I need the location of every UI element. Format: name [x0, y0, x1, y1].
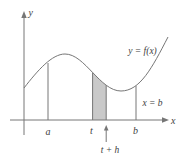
line-work	[10, 18, 168, 143]
t-tick-label: t	[90, 125, 93, 136]
y-axis-label: y	[28, 7, 34, 18]
b-tick-label: b	[133, 125, 138, 136]
x-axis-arrow-icon	[162, 117, 169, 122]
calculus-area-diagram: y x y = f(x) x = b a t b t + h	[0, 0, 184, 156]
a-tick-label: a	[46, 126, 51, 137]
x-axis-label: x	[170, 115, 176, 126]
x-equals-b-label: x = b	[141, 98, 162, 108]
t-plus-h-label: t + h	[101, 145, 120, 155]
y-axis-arrow-icon	[21, 11, 26, 18]
curve-label: y = f(x)	[127, 46, 157, 57]
t-plus-h-pointer-arrow-icon	[104, 125, 109, 131]
diagram-canvas: y x y = f(x) x = b a t b t + h	[0, 0, 184, 156]
labels: y x y = f(x) x = b a t b t + h	[28, 7, 177, 155]
